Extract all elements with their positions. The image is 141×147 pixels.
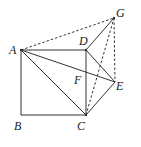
vertex-dot-a	[20, 49, 22, 51]
segments-group	[20, 17, 115, 116]
point-label-b: B	[14, 119, 22, 133]
vertex-dot-c	[85, 114, 87, 116]
diagram-svg: ABCDEFG	[0, 0, 141, 147]
segment-ce	[86, 82, 115, 115]
point-label-d: D	[78, 34, 88, 48]
point-label-g: G	[116, 6, 125, 20]
segment-dg	[86, 18, 114, 50]
segment-ge	[114, 18, 115, 82]
point-label-e: E	[115, 79, 124, 93]
point-label-a: A	[8, 43, 17, 57]
vertex-dot-d	[85, 49, 87, 51]
segment-cg	[86, 18, 114, 115]
vertex-dot-g	[113, 17, 115, 19]
geometry-diagram: ABCDEFG	[0, 0, 141, 147]
point-label-f: F	[73, 73, 82, 87]
point-label-c: C	[77, 119, 86, 133]
